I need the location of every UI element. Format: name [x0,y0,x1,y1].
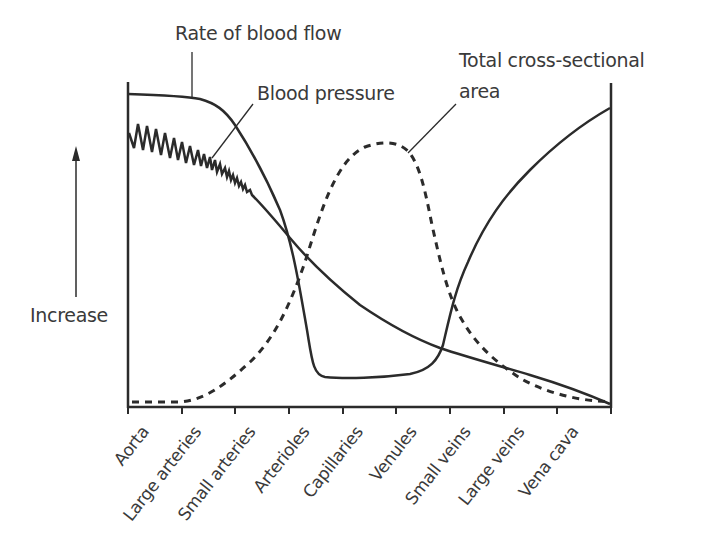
leader-area [408,104,456,153]
series-rate-of-blood-flow [128,94,610,378]
series-blood-pressure [129,124,610,404]
label-cross-sectional-area-line2: area [459,82,500,101]
label-rate-of-blood-flow: Rate of blood flow [175,24,341,43]
series-cross-sectional-area [132,143,610,402]
label-cross-sectional-area-line1: Total cross-sectional [459,51,645,70]
leader-pressure [212,104,253,158]
y-axis-label: Increase [30,306,108,325]
label-blood-pressure: Blood pressure [257,84,395,103]
increase-arrow-icon [72,146,80,297]
